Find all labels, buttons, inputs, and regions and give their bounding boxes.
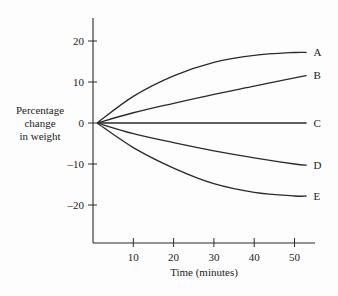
curve-labels: ABCDE [314, 46, 322, 202]
x-tick-label: 20 [168, 251, 180, 263]
curve-label-a: A [314, 46, 322, 58]
curve-a [97, 52, 307, 123]
y-tick-label: 10 [73, 76, 85, 88]
y-tick-label: –10 [67, 158, 85, 170]
y-tick-label: –20 [67, 199, 85, 211]
curve-label-d: D [314, 159, 322, 171]
axes: 20100–10–201020304050 [67, 18, 316, 263]
y-tick-label: 20 [73, 35, 85, 47]
x-tick-label: 40 [249, 251, 261, 263]
plot-area: 20100–10–201020304050 ABCDE Time (minute… [0, 0, 338, 296]
curve-label-b: B [314, 69, 321, 81]
curve-label-e: E [314, 190, 321, 202]
curve-e [97, 123, 307, 196]
curve-label-c: C [314, 117, 321, 129]
x-tick-label: 50 [289, 251, 301, 263]
y-tick-label: 0 [79, 117, 85, 129]
x-tick-label: 10 [128, 251, 140, 263]
curves [97, 52, 307, 196]
chart: Percentage change in weight 20100–10–201… [0, 0, 338, 296]
x-tick-label: 30 [208, 251, 220, 263]
x-axis-title: Time (minutes) [170, 266, 238, 279]
